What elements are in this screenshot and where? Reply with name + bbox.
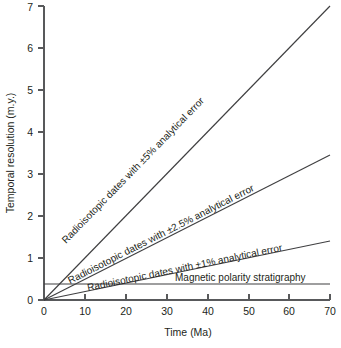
y-tick-label-6: 6 [27, 42, 33, 54]
x-tick-label-30: 30 [161, 305, 173, 317]
x-tick-label-10: 10 [79, 305, 91, 317]
y-tick-label-7: 7 [27, 1, 33, 13]
x-axis-title: Time (Ma) [164, 326, 211, 338]
x-tick-label-0: 0 [41, 305, 47, 317]
y-tick-label-5: 5 [27, 84, 33, 96]
series-label-1-percent: Radioisotopic dates with ±1% analytical … [86, 242, 284, 293]
x-tick-label-50: 50 [243, 305, 255, 317]
series-line-5-percent [44, 6, 330, 300]
y-tick-label-1: 1 [27, 252, 33, 264]
y-tick-label-4: 4 [27, 126, 33, 138]
series-label-magnetic-polarity: Magnetic polarity stratigraphy [175, 272, 306, 283]
chart-figure: 0 1 2 3 4 5 6 7 0 10 20 30 40 50 60 70 T… [0, 0, 341, 348]
y-tick-label-2: 2 [27, 210, 33, 222]
x-tick-label-40: 40 [202, 305, 214, 317]
temporal-resolution-line-chart: 0 1 2 3 4 5 6 7 0 10 20 30 40 50 60 70 T… [0, 0, 341, 348]
x-tick-label-20: 20 [120, 305, 132, 317]
y-tick-label-3: 3 [27, 168, 33, 180]
y-axis-title: Temporal resolution (m.y.) [4, 93, 16, 214]
x-tick-label-60: 60 [283, 305, 295, 317]
y-tick-label-0: 0 [27, 294, 33, 306]
x-tick-label-70: 70 [324, 305, 336, 317]
